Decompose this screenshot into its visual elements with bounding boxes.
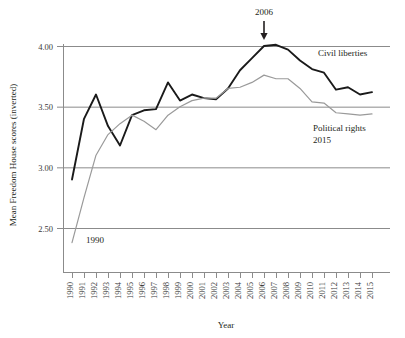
chart-container: 4.003.503.002.50 19901991199219931994199… bbox=[0, 0, 405, 338]
annotation-2006-label: 2006 bbox=[255, 7, 274, 17]
x-tick-label: 2008 bbox=[281, 282, 291, 299]
x-tick-label: 2007 bbox=[269, 282, 279, 299]
series-label-political-rights-year: 2015 bbox=[313, 135, 332, 145]
x-tick-label: 2010 bbox=[305, 282, 315, 299]
x-tick-label: 2000 bbox=[185, 282, 195, 299]
y-tick-label: 3.50 bbox=[38, 102, 53, 112]
y-tick-label: 3.00 bbox=[38, 163, 53, 173]
annotation-1990-label: 1990 bbox=[86, 235, 105, 245]
series-line-political-rights bbox=[72, 75, 372, 242]
x-tick-label: 2002 bbox=[209, 282, 219, 299]
x-tick-label: 2014 bbox=[353, 281, 363, 299]
gridlines-group bbox=[63, 47, 390, 229]
series-line-civil-liberties bbox=[72, 45, 372, 180]
x-tick-label: 2001 bbox=[197, 282, 207, 299]
x-tick-label: 2009 bbox=[293, 282, 303, 299]
y-tick-label: 4.00 bbox=[38, 42, 53, 52]
x-tick-label: 1992 bbox=[89, 282, 99, 299]
annotation-2006-arrow bbox=[260, 21, 267, 40]
y-axis-ticks-group: 4.003.503.002.50 bbox=[38, 42, 63, 234]
x-tick-label: 1994 bbox=[113, 281, 123, 299]
x-axis-ticks-group: 1990199119921993199419951996199719981999… bbox=[65, 273, 375, 300]
x-tick-label: 1998 bbox=[161, 282, 171, 299]
x-tick-label: 2006 bbox=[257, 282, 267, 299]
x-tick-label: 1991 bbox=[77, 282, 87, 299]
x-tick-label: 2004 bbox=[233, 281, 243, 299]
x-axis-title: Year bbox=[218, 320, 235, 330]
series-label-political-rights: Political rights bbox=[313, 123, 366, 133]
x-tick-label: 2011 bbox=[317, 282, 327, 299]
x-tick-label: 1993 bbox=[101, 282, 111, 299]
y-tick-label: 2.50 bbox=[38, 224, 53, 234]
x-tick-label: 2005 bbox=[245, 282, 255, 299]
x-tick-label: 2012 bbox=[329, 282, 339, 299]
x-tick-label: 2015 bbox=[365, 282, 375, 299]
x-tick-label: 2003 bbox=[221, 282, 231, 299]
x-tick-label: 1997 bbox=[149, 282, 159, 299]
series-label-civil-liberties: Civil liberties bbox=[318, 48, 368, 58]
x-tick-label: 1995 bbox=[125, 282, 135, 299]
x-tick-label: 2013 bbox=[341, 282, 351, 299]
x-tick-label: 1990 bbox=[65, 282, 75, 299]
x-tick-label: 1996 bbox=[137, 282, 147, 299]
y-axis-title: Mean Freedom House scores (inverted) bbox=[8, 84, 18, 226]
freedom-house-line-chart: 4.003.503.002.50 19901991199219931994199… bbox=[0, 0, 405, 338]
x-tick-label: 1999 bbox=[173, 282, 183, 299]
